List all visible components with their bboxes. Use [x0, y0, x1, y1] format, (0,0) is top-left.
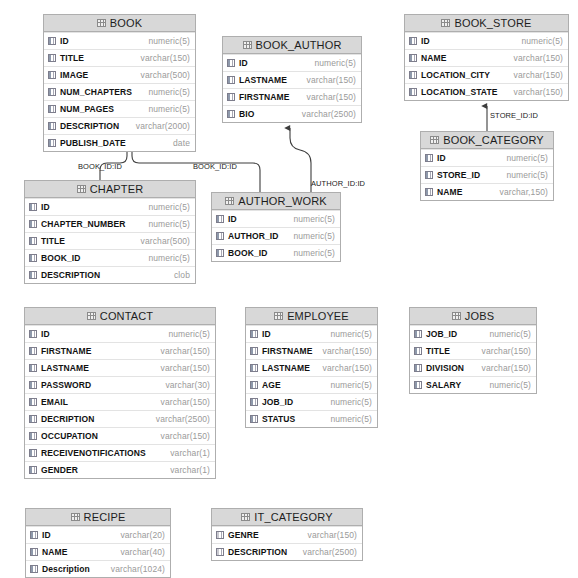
table-row[interactable]: AGEnumeric(5) — [246, 376, 377, 393]
table-row[interactable]: IDnumeric(5) — [25, 198, 195, 215]
table-row[interactable]: LASTNAMEvarchar(150) — [223, 71, 361, 88]
entity-table-employee[interactable]: EMPLOYEEIDnumeric(5)FIRSTNAMEvarchar(150… — [245, 307, 378, 428]
entity-table-book_store[interactable]: BOOK_STOREIDnumeric(5)NAMEvarchar(150)LO… — [404, 14, 569, 101]
column-type: numeric(5) — [287, 215, 335, 224]
column-name: ID — [228, 215, 237, 224]
column-icon — [250, 398, 258, 406]
column-icon — [48, 105, 56, 113]
table-name: BOOK_STORE — [454, 18, 531, 29]
table-row[interactable]: SALARYnumeric(5) — [410, 376, 536, 393]
column-type: numeric(5) — [483, 330, 531, 339]
table-row[interactable]: IDnumeric(5) — [405, 32, 568, 49]
table-row[interactable]: FIRSTNAMEvarchar(150) — [25, 342, 215, 359]
entity-table-book_author[interactable]: BOOK_AUTHORIDnumeric(5)LASTNAMEvarchar(1… — [222, 36, 362, 123]
table-row[interactable]: LASTNAMEvarchar(150) — [25, 359, 215, 376]
column-name: STORE_ID — [437, 171, 480, 180]
table-header[interactable]: IT_CATEGORY — [212, 509, 362, 526]
table-row[interactable]: NAMEvarchar(150) — [405, 49, 568, 66]
column-icon — [48, 88, 56, 96]
table-row[interactable]: PASSWORDvarchar(30) — [25, 376, 215, 393]
table-row[interactable]: BOOK_IDnumeric(5) — [212, 244, 340, 261]
table-row[interactable]: JOB_IDnumeric(5) — [246, 393, 377, 410]
table-row[interactable]: GENREvarchar(150) — [212, 526, 362, 543]
entity-table-book_category[interactable]: BOOK_CATEGORYIDnumeric(5)STORE_IDnumeric… — [420, 131, 554, 201]
table-row[interactable]: EMAILvarchar(150) — [25, 393, 215, 410]
table-row[interactable]: CHAPTER_NUMBERnumeric(5) — [25, 215, 195, 232]
table-row[interactable]: IMAGEvarchar(500) — [44, 66, 195, 83]
table-row[interactable]: Descriptionvarchar(1024) — [26, 560, 170, 577]
table-row[interactable]: DESCRIPTIONclob — [25, 266, 195, 283]
table-row[interactable]: TITLEvarchar(500) — [25, 232, 195, 249]
table-row[interactable]: AUTHOR_IDnumeric(5) — [212, 227, 340, 244]
table-row[interactable]: IDvarchar(20) — [26, 526, 170, 543]
table-row[interactable]: NAMEvarchar(40) — [26, 543, 170, 560]
column-name: BOOK_ID — [41, 254, 80, 263]
entity-table-author_work[interactable]: AUTHOR_WORKIDnumeric(5)AUTHOR_IDnumeric(… — [211, 192, 341, 262]
column-type: numeric(5) — [162, 330, 210, 339]
column-name: GENDER — [41, 466, 78, 475]
table-header[interactable]: CONTACT — [25, 308, 215, 325]
table-header[interactable]: JOBS — [410, 308, 536, 325]
table-row[interactable]: RECEIVENOTIFICATIONSvarchar(1) — [25, 444, 215, 461]
table-header[interactable]: CHAPTER — [25, 181, 195, 198]
table-row[interactable]: IDnumeric(5) — [246, 325, 377, 342]
column-icon — [425, 154, 433, 162]
table-row[interactable]: LOCATION_CITYvarchar(150) — [405, 66, 568, 83]
table-row[interactable]: NAMEvarchar,150) — [421, 183, 553, 200]
table-row[interactable]: STATUSnumeric(5) — [246, 410, 377, 427]
table-row[interactable]: TITLEvarchar(150) — [410, 342, 536, 359]
column-type: varchar(1024) — [105, 565, 165, 574]
table-row[interactable]: TITLEvarchar(150) — [44, 49, 195, 66]
column-type: numeric(5) — [483, 381, 531, 390]
table-header[interactable]: BOOK_AUTHOR — [223, 37, 361, 54]
table-row[interactable]: DIVISIONvarchar(150) — [410, 359, 536, 376]
table-header[interactable]: RECIPE — [26, 509, 170, 526]
table-row[interactable]: GENDERvarchar(1) — [25, 461, 215, 478]
table-name: AUTHOR_WORK — [238, 196, 326, 207]
table-header[interactable]: EMPLOYEE — [246, 308, 377, 325]
column-icon — [250, 381, 258, 389]
table-row[interactable]: BOOK_IDnumeric(5) — [25, 249, 195, 266]
column-type: numeric(5) — [500, 154, 548, 163]
relationship-label: STORE_ID:ID — [490, 112, 538, 120]
table-row[interactable]: STORE_IDnumeric(5) — [421, 166, 553, 183]
table-row[interactable]: DESCRIPTIONvarchar(2500) — [212, 543, 362, 560]
column-type: numeric(5) — [142, 220, 190, 229]
column-name: JOB_ID — [426, 330, 457, 339]
column-name: PASSWORD — [41, 381, 91, 390]
table-row[interactable]: IDnumeric(5) — [25, 325, 215, 342]
column-icon — [29, 466, 37, 474]
table-row[interactable]: IDnumeric(5) — [212, 210, 340, 227]
column-icon — [29, 381, 37, 389]
table-row[interactable]: FIRSTNAMEvarchar(150) — [246, 342, 377, 359]
table-row[interactable]: BIOvarchar(2500) — [223, 105, 361, 122]
column-name: ID — [421, 37, 430, 46]
table-row[interactable]: LOCATION_STATEvarchar(150) — [405, 83, 568, 100]
table-header[interactable]: BOOK_CATEGORY — [421, 132, 553, 149]
table-row[interactable]: IDnumeric(5) — [421, 149, 553, 166]
table-row[interactable]: DECRIPTIONvarchar(2500) — [25, 410, 215, 427]
table-header[interactable]: BOOK — [44, 15, 195, 32]
table-row[interactable]: FIRSTNAMEvarchar(150) — [223, 88, 361, 105]
entity-table-jobs[interactable]: JOBSJOB_IDnumeric(5)TITLEvarchar(150)DIV… — [409, 307, 537, 394]
entity-table-chapter[interactable]: CHAPTERIDnumeric(5)CHAPTER_NUMBERnumeric… — [24, 180, 196, 284]
column-type: numeric(5) — [324, 381, 372, 390]
entity-table-book[interactable]: BOOKIDnumeric(5)TITLEvarchar(150)IMAGEva… — [43, 14, 196, 152]
table-header[interactable]: BOOK_STORE — [405, 15, 568, 32]
table-row[interactable]: NUM_CHAPTERSnumeric(5) — [44, 83, 195, 100]
table-header[interactable]: AUTHOR_WORK — [212, 193, 340, 210]
table-row[interactable]: JOB_IDnumeric(5) — [410, 325, 536, 342]
entity-table-it_category[interactable]: IT_CATEGORYGENREvarchar(150)DESCRIPTIONv… — [211, 508, 363, 561]
table-row[interactable]: IDnumeric(5) — [44, 32, 195, 49]
table-row[interactable]: IDnumeric(5) — [223, 54, 361, 71]
table-row[interactable]: OCCUPATIONvarchar(150) — [25, 427, 215, 444]
table-row[interactable]: DESCRIPTIONvarchar(2000) — [44, 117, 195, 134]
column-icon — [250, 347, 258, 355]
table-row[interactable]: NUM_PAGESnumeric(5) — [44, 100, 195, 117]
column-type: varchar(150) — [476, 347, 531, 356]
column-icon — [48, 139, 56, 147]
table-row[interactable]: PUBLISH_DATEdate — [44, 134, 195, 151]
entity-table-contact[interactable]: CONTACTIDnumeric(5)FIRSTNAMEvarchar(150)… — [24, 307, 216, 479]
entity-table-recipe[interactable]: RECIPEIDvarchar(20)NAMEvarchar(40)Descri… — [25, 508, 171, 578]
table-row[interactable]: LASTNAMEvarchar(150) — [246, 359, 377, 376]
